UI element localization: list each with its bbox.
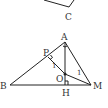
point-O (64, 73, 67, 76)
geometry-diagram: C A P B O H M 1 1 (0, 0, 108, 108)
label-M: M (93, 81, 102, 91)
angle-label-1-M: 1 (77, 69, 81, 77)
angle-label-1-P: 1 (52, 62, 56, 70)
top-figure (44, 0, 74, 7)
triangle-ABM (10, 42, 91, 85)
label-A: A (60, 32, 68, 42)
label-H: H (62, 88, 70, 98)
label-B: B (0, 81, 7, 91)
label-O: O (56, 74, 63, 84)
label-C: C (65, 12, 72, 22)
label-P: P (43, 48, 49, 58)
